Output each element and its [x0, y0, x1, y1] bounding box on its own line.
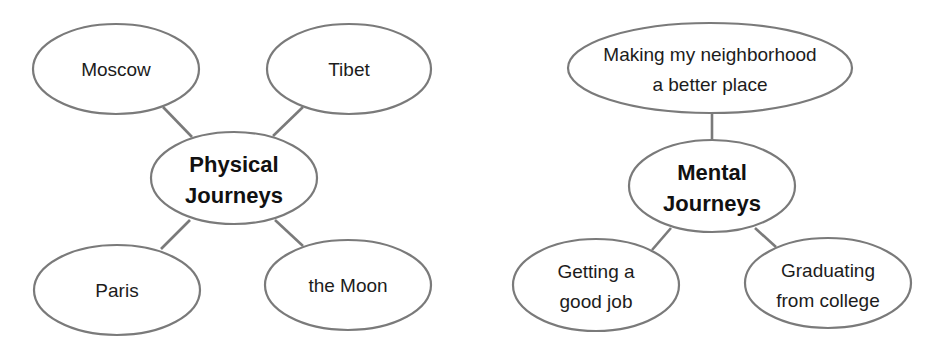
node-job-line2: good job — [560, 291, 633, 312]
node-tibet-label: Tibet — [328, 59, 370, 80]
node-paris-label: Paris — [95, 280, 138, 301]
node-college-shape — [745, 238, 911, 328]
connector-moon — [275, 220, 303, 246]
node-tibet: Tibet — [267, 24, 431, 114]
node-college: Graduating from college — [745, 238, 911, 328]
node-moon: the Moon — [265, 240, 431, 330]
node-college-line2: from college — [776, 290, 880, 311]
connector-moscow — [163, 107, 192, 137]
node-college-line1: Graduating — [781, 260, 875, 281]
node-mental-journeys-line1: Mental — [677, 160, 747, 185]
node-mental-journeys: Mental Journeys — [629, 140, 795, 232]
node-job-line1: Getting a — [557, 261, 635, 282]
journeys-diagram-canvas: Moscow Tibet Physical Journeys Paris the… — [0, 0, 932, 351]
physical-journeys-diagram: Moscow Tibet Physical Journeys Paris the… — [33, 24, 431, 335]
node-paris: Paris — [34, 245, 200, 335]
mental-journeys-diagram: Making my neighborhood a better place Me… — [513, 23, 911, 331]
node-neighborhood-line1: Making my neighborhood — [603, 44, 816, 65]
node-neighborhood-shape — [568, 23, 852, 113]
node-physical-journeys-line1: Physical — [189, 152, 278, 177]
node-moscow-label: Moscow — [81, 59, 151, 80]
node-moon-label: the Moon — [308, 275, 387, 296]
node-physical-journeys-shape — [151, 132, 317, 224]
node-mental-journeys-line2: Journeys — [663, 191, 761, 216]
node-job-shape — [513, 239, 679, 331]
connector-paris — [161, 220, 190, 249]
node-neighborhood-line2: a better place — [652, 74, 767, 95]
node-moscow: Moscow — [33, 24, 199, 114]
node-mental-journeys-shape — [629, 140, 795, 232]
node-physical-journeys: Physical Journeys — [151, 132, 317, 224]
connector-job — [652, 228, 671, 250]
node-neighborhood: Making my neighborhood a better place — [568, 23, 852, 113]
connector-college — [755, 228, 776, 247]
node-job: Getting a good job — [513, 239, 679, 331]
connector-tibet — [273, 107, 303, 136]
node-physical-journeys-line2: Journeys — [185, 183, 283, 208]
